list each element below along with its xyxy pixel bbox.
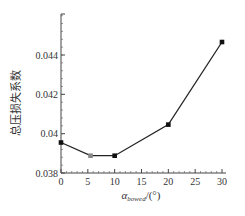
y-tick-label: 0.038	[36, 168, 59, 179]
data-series	[59, 40, 225, 158]
x-tick-label: 5	[85, 176, 90, 187]
axes	[61, 14, 226, 173]
x-tick-label: 20	[163, 176, 173, 187]
data-point-marker	[59, 140, 64, 145]
series-line	[61, 42, 222, 156]
x-tick-label: 0	[59, 176, 64, 187]
y-tick-label: 0.04	[41, 128, 59, 139]
x-axis-label: αbowed/(°)	[122, 189, 161, 203]
y-axis-label: 总压损失系数	[9, 70, 23, 136]
line-chart: 0.0380.040.0420.044051015202530 总压损失系数 α…	[0, 0, 245, 216]
data-point-marker	[166, 122, 171, 127]
y-tick-label: 0.042	[36, 89, 59, 100]
y-tick-label: 0.044	[36, 50, 59, 61]
x-tick-label: 25	[190, 176, 200, 187]
x-tick-label: 10	[110, 176, 120, 187]
data-point-marker	[220, 40, 225, 45]
data-point-marker	[112, 153, 117, 158]
data-point-marker	[88, 153, 93, 158]
axis-ticks: 0.0380.040.0420.044051015202530	[36, 16, 228, 187]
x-axis-label-subscript: bowed	[127, 195, 146, 203]
x-axis-label-unit: /(°)	[146, 189, 161, 202]
x-tick-label: 15	[137, 176, 147, 187]
x-tick-label: 30	[217, 176, 227, 187]
